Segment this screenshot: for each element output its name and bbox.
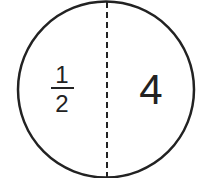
- divided-circle-diagram: 1 2 4: [0, 0, 205, 178]
- fraction-numerator: 1: [55, 61, 68, 88]
- fraction-denominator: 2: [55, 90, 68, 117]
- right-value: 4: [139, 66, 162, 113]
